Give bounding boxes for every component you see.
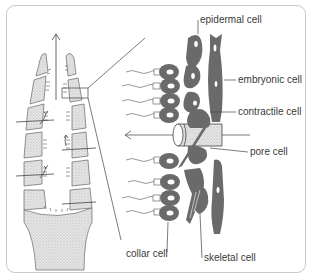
- label-skeletal-cell: skeletal cell: [204, 252, 256, 263]
- label-embryonic-cell: embryonic cell: [238, 74, 302, 85]
- sponge-body-section: [24, 53, 92, 270]
- flagella: [122, 71, 157, 214]
- label-epidermal-cell: epidermal cell: [200, 14, 262, 25]
- sponge-illustration: [0, 0, 311, 279]
- label-contractile-cell: contractile cell: [238, 106, 301, 117]
- label-pore-cell: pore cell: [250, 146, 288, 157]
- label-collar-cell: collar cell: [126, 248, 168, 259]
- collars: [153, 69, 161, 215]
